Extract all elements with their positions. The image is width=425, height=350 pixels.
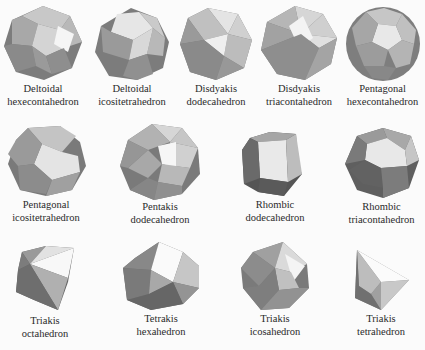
caption: Rhombicdodecahedron bbox=[232, 199, 318, 224]
pentagonal-icositetrahedron-icon bbox=[6, 124, 86, 198]
polyhedron-deltoidal-icositetrahedron: Deltoidalicositetrahedron bbox=[89, 4, 175, 108]
triakis-tetrahedron-icon bbox=[351, 246, 411, 312]
disdyakis-triacontahedron-icon bbox=[259, 4, 339, 82]
caption: Triakistetrahedron bbox=[346, 313, 416, 338]
polyhedron-pentakis-dodecahedron: Pentakisdodecahedron bbox=[112, 122, 208, 226]
polyhedron-disdyakis-triacontahedron: Disdyakistriacontahedron bbox=[256, 4, 342, 108]
polyhedron-pentagonal-hexecontahedron: Pentagonalhexecontahedron bbox=[340, 4, 425, 108]
caption: Rhombictriacontahedron bbox=[338, 201, 425, 226]
polyhedron-triakis-icosahedron: Triakisicosahedron bbox=[232, 238, 318, 338]
pentakis-dodecahedron-icon bbox=[118, 122, 202, 200]
caption: Pentagonalhexecontahedron bbox=[340, 83, 425, 108]
caption: Tetrakishexahedron bbox=[118, 313, 204, 338]
caption: Deltoidalicositetrahedron bbox=[89, 83, 175, 108]
caption: Deltoidalhexecontahedron bbox=[0, 83, 86, 108]
caption: Disdyakisdodecahedron bbox=[174, 83, 258, 108]
polyhedron-rhombic-dodecahedron: Rhombicdodecahedron bbox=[232, 130, 318, 224]
caption: Pentakisdodecahedron bbox=[112, 201, 208, 226]
deltoidal-hexecontahedron-icon bbox=[2, 4, 84, 82]
caption: Pentagonalicositetrahedron bbox=[2, 199, 90, 224]
polyhedron-tetrakis-hexahedron: Tetrakishexahedron bbox=[118, 238, 204, 338]
polyhedron-triakis-tetrahedron: Triakistetrahedron bbox=[346, 246, 416, 338]
tetrakis-hexahedron-icon bbox=[121, 238, 201, 312]
rhombic-triacontahedron-icon bbox=[343, 126, 421, 200]
caption: Disdyakistriacontahedron bbox=[256, 83, 342, 108]
deltoidal-icositetrahedron-icon bbox=[93, 4, 171, 82]
caption: Triakisoctahedron bbox=[6, 315, 84, 340]
triakis-octahedron-icon bbox=[12, 240, 78, 314]
polyhedron-triakis-octahedron: Triakisoctahedron bbox=[6, 240, 84, 340]
polyhedron-rhombic-triacontahedron: Rhombictriacontahedron bbox=[338, 126, 425, 226]
polyhedron-deltoidal-hexecontahedron: Deltoidalhexecontahedron bbox=[0, 4, 86, 108]
polyhedron-pentagonal-icositetrahedron: Pentagonalicositetrahedron bbox=[2, 124, 90, 224]
triakis-icosahedron-icon bbox=[239, 238, 311, 312]
rhombic-dodecahedron-icon bbox=[240, 130, 310, 198]
polyhedron-disdyakis-dodecahedron: Disdyakisdodecahedron bbox=[174, 4, 258, 108]
pentagonal-hexecontahedron-icon bbox=[344, 4, 422, 82]
caption: Triakisicosahedron bbox=[232, 313, 318, 338]
disdyakis-dodecahedron-icon bbox=[178, 4, 254, 82]
